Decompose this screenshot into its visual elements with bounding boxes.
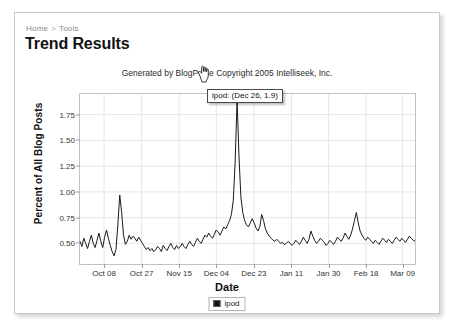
y-tick-label: 0.50 — [59, 239, 75, 248]
x-tick-label: Dec 04 — [204, 269, 229, 278]
x-tick-label: Jan 11 — [280, 269, 303, 278]
x-tick-mark — [291, 264, 292, 268]
x-tick-mark — [104, 264, 105, 268]
y-axis-label: Percent of All Blog Posts — [33, 89, 44, 239]
page-title: Trend Results — [25, 35, 130, 53]
x-tick-label: Oct 27 — [130, 269, 154, 278]
y-tick-label: 1.75 — [59, 110, 75, 119]
chart-legend: ipod — [208, 297, 245, 311]
x-axis-label: Date — [15, 281, 439, 293]
plot-svg — [80, 94, 415, 264]
y-tick-label: 1.50 — [59, 136, 75, 145]
y-tick-label: 1.25 — [59, 162, 75, 171]
x-tick-mark — [216, 264, 217, 268]
y-tick-mark — [76, 114, 80, 115]
x-tick-label: Oct 08 — [92, 269, 116, 278]
y-tick-mark — [76, 217, 80, 218]
data-point-tooltip: ipod: (Dec 26, 1.9) — [207, 89, 283, 103]
y-tick-mark — [76, 166, 80, 167]
x-tick-mark — [403, 264, 404, 268]
series-lines — [80, 99, 415, 256]
y-tick-mark — [76, 191, 80, 192]
x-tick-mark — [329, 264, 330, 268]
chart-subtitle: Generated by BlogPulse Copyright 2005 In… — [15, 68, 439, 78]
breadcrumb-link-home[interactable]: Home — [26, 24, 48, 33]
legend-label-ipod: ipod — [224, 299, 239, 308]
y-tick-label: 0.75 — [59, 213, 75, 222]
x-tick-mark — [254, 264, 255, 268]
trend-chart: Generated by BlogPulse Copyright 2005 In… — [15, 63, 439, 313]
x-tick-label: Nov 15 — [166, 269, 191, 278]
trend-results-card: Home>Tools Trend Results Generated by Bl… — [14, 12, 440, 314]
screen-root: Home>Tools Trend Results Generated by Bl… — [0, 0, 455, 327]
x-tick-label: Jan 30 — [317, 269, 341, 278]
x-tick-label: Feb 18 — [354, 269, 379, 278]
breadcrumb-separator-icon: > — [51, 24, 56, 33]
y-tick-mark — [76, 243, 80, 244]
plot-area[interactable]: 0.500.751.001.251.501.75 Oct 08Oct 27Nov… — [79, 93, 416, 265]
y-tick-label: 1.00 — [59, 187, 75, 196]
x-tick-label: Mar 09 — [390, 269, 415, 278]
breadcrumb-link-tools[interactable]: Tools — [59, 24, 79, 33]
breadcrumb: Home>Tools — [26, 24, 79, 33]
x-tick-label: Dec 23 — [241, 269, 266, 278]
x-tick-mark — [366, 264, 367, 268]
x-tick-mark — [142, 264, 143, 268]
legend-swatch-ipod — [213, 300, 220, 307]
y-tick-mark — [76, 140, 80, 141]
x-tick-mark — [179, 264, 180, 268]
